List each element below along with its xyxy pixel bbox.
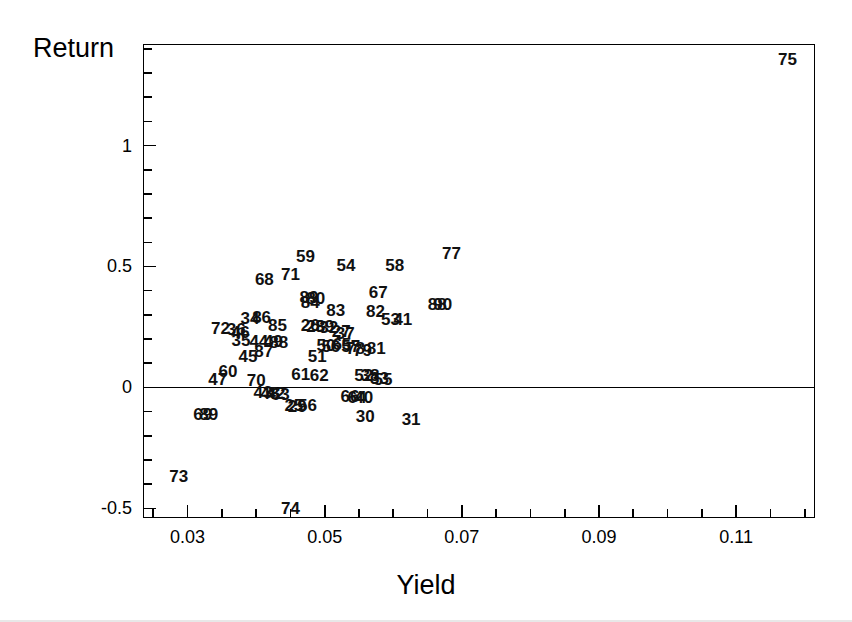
x-tick-minor: [358, 509, 360, 518]
data-point-label: 54: [337, 257, 356, 274]
x-axis-title: Yield: [0, 570, 852, 601]
data-point-label: 59: [296, 247, 315, 264]
x-tick-minor: [564, 509, 566, 518]
y-tick-minor: [143, 459, 152, 461]
data-point-label: 55: [374, 370, 393, 387]
y-tick-label: 1: [80, 135, 132, 156]
data-point-label: 77: [442, 245, 461, 262]
y-axis-title: Return: [33, 33, 114, 64]
x-tick-label: 0.05: [307, 527, 342, 548]
y-tick-minor: [143, 193, 152, 195]
x-tick-minor: [392, 509, 394, 518]
data-point-label: 81: [367, 339, 386, 356]
y-tick-minor: [143, 435, 152, 437]
y-tick-minor: [143, 169, 152, 171]
data-point-label: 61: [291, 366, 310, 383]
y-tick-label: 0.5: [80, 256, 132, 277]
data-point-label: 47: [208, 370, 227, 387]
y-tick-minor: [143, 483, 152, 485]
x-tick-major: [598, 505, 600, 518]
data-point-label: 71: [281, 265, 300, 282]
x-tick-minor: [221, 509, 223, 518]
data-point-label: 90: [433, 295, 452, 312]
x-tick-minor: [770, 509, 772, 518]
y-tick-minor: [143, 338, 152, 340]
y-tick-minor: [143, 362, 152, 364]
data-point-label: 40: [354, 388, 373, 405]
plot-frame: [143, 44, 815, 518]
data-point-label: 75: [778, 50, 797, 67]
x-tick-label: 0.03: [170, 527, 205, 548]
x-tick-label: 0.11: [719, 527, 753, 548]
data-point-label: 56: [298, 396, 317, 413]
x-tick-major: [324, 505, 326, 518]
data-point-label: 30: [356, 407, 375, 424]
data-point-label: 68: [255, 270, 274, 287]
x-tick-major: [461, 505, 463, 518]
x-tick-minor: [530, 509, 532, 518]
data-point-label: 89: [199, 406, 218, 423]
data-point-label: 84: [301, 294, 320, 311]
y-tick-major: [143, 266, 156, 268]
x-tick-major: [735, 505, 737, 518]
y-tick-minor: [143, 411, 152, 413]
x-tick-minor: [427, 509, 429, 518]
data-point-label: 67: [369, 283, 388, 300]
data-point-label: 85: [268, 317, 287, 334]
y-tick-label: 0: [80, 377, 132, 398]
x-tick-minor: [701, 509, 703, 518]
y-tick-minor: [143, 121, 152, 123]
y-tick-minor: [143, 72, 152, 74]
y-tick-minor: [143, 290, 152, 292]
y-tick-minor: [143, 48, 152, 50]
y-tick-minor: [143, 242, 152, 244]
x-tick-label: 0.07: [444, 527, 479, 548]
y-tick-major: [143, 145, 156, 147]
y-tick-minor: [143, 217, 152, 219]
x-tick-major: [187, 505, 189, 518]
x-tick-minor: [255, 509, 257, 518]
zero-reference-line: [143, 387, 815, 388]
x-tick-label: 0.09: [581, 527, 616, 548]
data-point-label: 74: [281, 499, 300, 516]
data-point-label: 51: [308, 347, 327, 364]
data-point-label: 45: [238, 348, 257, 365]
scatter-plot-figure: Return Yield -0.500.510.030.050.070.090.…: [0, 0, 852, 622]
y-tick-minor: [143, 96, 152, 98]
data-point-label: 62: [310, 367, 329, 384]
y-tick-minor: [143, 314, 152, 316]
data-point-label: 73: [169, 467, 188, 484]
x-tick-minor: [804, 509, 806, 518]
y-tick-label: -0.5: [80, 498, 132, 519]
x-tick-minor: [632, 509, 634, 518]
data-point-label: 31: [402, 410, 421, 427]
x-tick-minor: [495, 509, 497, 518]
data-point-label: 41: [393, 310, 412, 327]
data-point-label: 58: [385, 257, 404, 274]
x-tick-minor: [667, 509, 669, 518]
x-tick-minor: [152, 509, 154, 518]
